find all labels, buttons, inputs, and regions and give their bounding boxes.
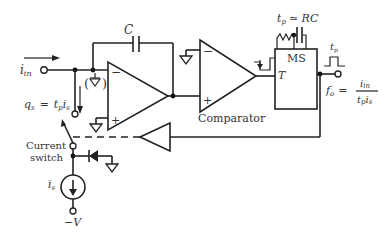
monostable-block: MS T: [275, 49, 317, 109]
integrator-opamp: − +: [108, 62, 200, 130]
svg-text:iin: iin: [360, 78, 370, 90]
current-switch-label-1: Current: [26, 140, 66, 151]
output-frequency-equation: fo= iin tpis: [325, 78, 378, 106]
comparator-label: Comparator: [198, 112, 266, 125]
svg-text:MS: MS: [287, 52, 306, 65]
svg-text:tpis: tpis: [357, 94, 373, 106]
capacitor-label: C: [124, 23, 133, 37]
input-current-arrow: [24, 55, 60, 61]
charge-arrow: [77, 86, 83, 114]
diode-branch: [71, 149, 118, 175]
rc-timing-network: [277, 27, 306, 49]
svg-text:−: −: [203, 44, 213, 58]
supply-label: −V: [64, 216, 82, 229]
svg-text:+: +: [203, 94, 212, 107]
charge-equation: qs=tpis: [24, 98, 70, 112]
output-pulse-label: tp: [330, 41, 338, 54]
output-pulse-icon: [324, 57, 345, 66]
pulse-width-equation: tp≃ RC: [277, 12, 319, 26]
svg-text:−: −: [111, 65, 121, 79]
current-source-label: is: [48, 178, 56, 192]
comparator: − +: [180, 40, 256, 112]
switch-top-terminal: [72, 111, 78, 117]
svg-text:): ): [102, 76, 107, 91]
svg-text:fo=: fo=: [325, 84, 348, 98]
vfc-circuit-diagram: iin C ( ) qs=tpis − +: [0, 0, 388, 234]
input-terminal: [41, 67, 47, 73]
input-wire: [47, 68, 108, 73]
ground-icon: [90, 118, 108, 132]
current-switch-label-2: switch: [30, 152, 64, 163]
trigger-wire: [254, 58, 276, 76]
virtual-ground-icon: ( ): [84, 73, 107, 91]
switch-driver-buffer: [140, 123, 170, 151]
svg-text:+: +: [111, 114, 120, 127]
svg-text:(: (: [84, 76, 89, 91]
current-source: [61, 175, 85, 214]
input-label: iin: [20, 63, 32, 78]
